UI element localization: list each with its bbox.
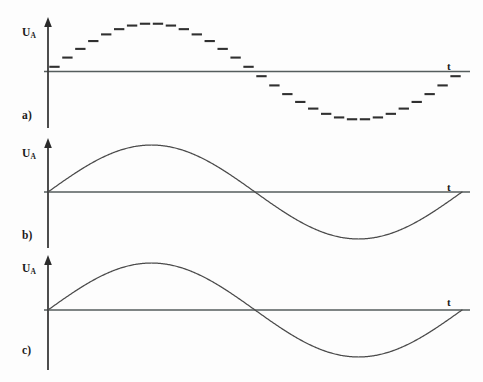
panel-c-index-label: c) [22, 345, 31, 357]
panel-c-y-axis-arrow-icon [44, 255, 52, 265]
panel-b-plot [0, 130, 483, 255]
panel-b-x-axis-label: t [447, 182, 451, 193]
panel-a-y-axis-arrow-icon [44, 17, 52, 27]
panel-b-y-axis-arrow-icon [44, 138, 52, 148]
panel-b-y-axis-label: UA [22, 148, 36, 160]
panel-a-index-label: a) [22, 110, 32, 122]
panel-a: UA t a) [0, 0, 483, 140]
panel-c-plot [0, 250, 483, 382]
panel-a-plot [0, 0, 483, 140]
panel-c-x-axis-label: t [447, 297, 451, 308]
panel-a-x-axis-label: t [447, 61, 451, 72]
panel-c-y-axis-label: UA [22, 263, 36, 275]
panel-b-index-label: b) [22, 230, 33, 242]
waveform-figure: UA t a) UA t b) UA t c) [0, 0, 483, 382]
panel-c: UA t c) [0, 250, 483, 382]
panel-a-y-axis-label: UA [22, 27, 36, 39]
panel-b: UA t b) [0, 130, 483, 255]
